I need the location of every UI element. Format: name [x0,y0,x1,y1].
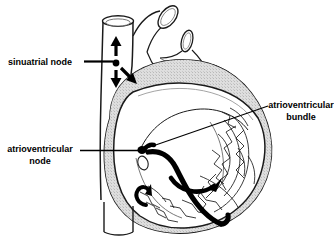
label-atrioventricular-bundle-line2: bundle [286,112,316,122]
label-atrioventricular-node-line1: atrioventricular [7,144,73,154]
heart-conduction-diagram: sinuatrial node atrioventricular node at… [0,0,334,246]
label-atrioventricular-node-line2: node [29,156,51,166]
label-atrioventricular-bundle-line1: atrioventricular [268,100,334,110]
label-sinuatrial-node: sinuatrial node [8,57,72,67]
ventricular-myocardium [104,60,271,233]
